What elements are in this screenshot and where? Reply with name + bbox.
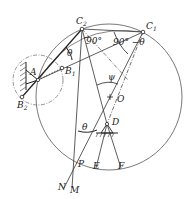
diagram-canvas: C2 C1 A B1 B2 θ 90° 90° −θ ψ O D θ P E F… (0, 0, 190, 199)
joint-c1 (141, 30, 145, 34)
label-p: P (78, 160, 84, 169)
label-c2: C2 (76, 17, 87, 27)
label-e: E (93, 162, 100, 171)
label-b2: B2 (17, 101, 27, 111)
joint-b2 (20, 95, 24, 99)
line-b2-c2 (22, 29, 82, 97)
theta-arc-bottom (78, 130, 97, 132)
psi-arc (97, 82, 118, 85)
joint-d (105, 122, 108, 125)
ground-a-hatch (20, 62, 26, 91)
label-90: 90° (86, 37, 102, 46)
label-n: N (58, 183, 66, 192)
label-theta-bottom: θ (82, 123, 87, 132)
label-90-minus-theta: 90° −θ (113, 38, 145, 47)
label-m: M (70, 186, 79, 195)
label-o: O (117, 95, 124, 104)
chord-c2-c1 (82, 29, 143, 32)
joint-b1 (60, 66, 64, 70)
joint-c2 (80, 27, 84, 31)
label-b1: B1 (65, 67, 75, 77)
label-psi: ψ (108, 73, 115, 82)
joint-a (36, 78, 39, 81)
label-d: D (112, 118, 119, 127)
label-c1: C1 (146, 22, 157, 32)
label-a: A (30, 68, 37, 77)
label-theta-top: θ (67, 49, 72, 58)
line-c1-n (64, 32, 143, 188)
label-f: F (118, 162, 124, 171)
